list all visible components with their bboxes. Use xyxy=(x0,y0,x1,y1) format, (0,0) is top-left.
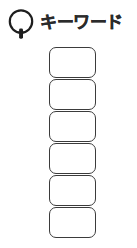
page-title: キーワード xyxy=(40,9,137,35)
keyword-box[interactable] xyxy=(49,79,96,110)
magnifier-icon xyxy=(6,8,36,40)
keyword-box-stack xyxy=(49,47,98,245)
keyword-box[interactable] xyxy=(49,47,96,78)
keyword-box[interactable] xyxy=(49,175,96,206)
keyword-box[interactable] xyxy=(49,143,96,174)
keyword-box[interactable] xyxy=(49,111,96,142)
keyword-box[interactable] xyxy=(49,207,96,238)
panel-header: キーワード xyxy=(0,0,137,44)
keyword-panel: キーワード xyxy=(0,0,137,248)
